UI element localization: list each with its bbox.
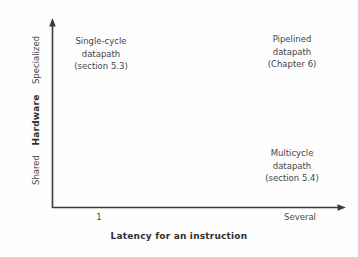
quadrant-chart: Hardware Latency for an instruction Spec… [0,0,358,257]
y-tick-label-specialized: Specialized [31,36,41,84]
annotation-pipelined-datapath: Pipelined datapath (Chapter 6) [268,33,317,71]
y-tick-label-shared: Shared [31,155,41,185]
annotation-line-3: (section 5.4) [265,172,318,185]
x-axis-title: Latency for an instruction [0,231,358,241]
annotation-multicycle-datapath: Multicycle datapath (section 5.4) [265,147,318,185]
x-axis-arrowhead [338,204,347,211]
annotation-line-1: Multicycle [265,147,318,160]
annotation-single-cycle-datapath: Single-cycle datapath (section 5.3) [74,35,127,73]
x-tick-label-several: Several [284,212,316,222]
annotation-line-3: (Chapter 6) [268,58,317,71]
y-axis-title: Hardware [31,94,41,145]
annotation-line-1: Pipelined [268,33,317,46]
annotation-line-2: datapath [265,160,318,173]
y-axis-arrowhead [49,18,56,27]
x-tick-label-one: 1 [96,212,101,222]
annotation-line-1: Single-cycle [74,35,127,48]
annotation-line-2: datapath [74,48,127,61]
annotation-line-2: datapath [268,46,317,59]
annotation-line-3: (section 5.3) [74,60,127,73]
